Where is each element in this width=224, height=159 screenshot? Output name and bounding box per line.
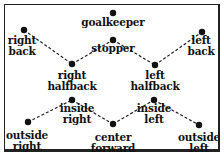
goalkeeper-label: goalkeeper	[81, 17, 144, 28]
left-back-label: leftback	[187, 35, 214, 57]
right-back-label: rightback	[8, 35, 36, 57]
center-forward-dot	[110, 121, 116, 127]
left-halfback-label: lefthalfback	[130, 70, 179, 92]
center-forward-label: centerforward	[91, 132, 135, 154]
inside-right-label: insideright	[60, 103, 94, 125]
stopper-label: stopper	[91, 43, 134, 54]
inside-left-label: insideleft	[137, 103, 171, 125]
formation-diagram: goalkeeperrightbackstopperleftbackrighth…	[0, 0, 224, 159]
left-halfback-dot	[152, 62, 158, 68]
right-halfback-label: righthalfback	[47, 70, 96, 92]
outside-left-dot	[196, 122, 202, 128]
right-halfback-dot	[69, 61, 75, 67]
right-back-dot	[21, 27, 27, 33]
outside-left-label: outsideleft	[178, 132, 220, 154]
outside-right-label: outsideright	[6, 130, 48, 152]
outside-right-dot	[25, 119, 31, 125]
